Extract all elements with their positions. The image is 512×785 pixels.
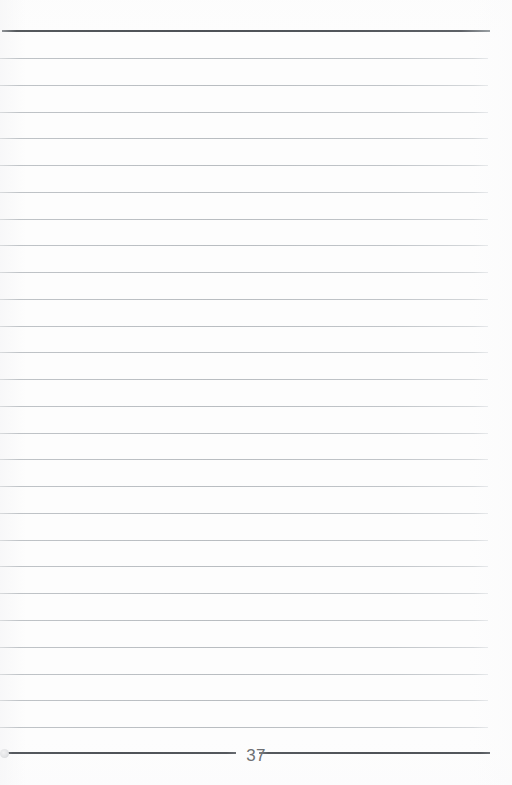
ruled-line [0, 245, 488, 246]
ruled-line [0, 566, 488, 567]
page-number: 37 [0, 747, 512, 764]
ruled-line [0, 219, 488, 220]
ruled-line [0, 433, 488, 434]
ruled-line [0, 647, 488, 648]
ruled-line [0, 138, 488, 139]
ruled-line [0, 406, 488, 407]
ruled-line [0, 593, 488, 594]
notebook-page: 37 [0, 0, 512, 785]
ruled-line [0, 112, 488, 113]
ruled-line [0, 272, 488, 273]
ruled-line [0, 486, 488, 487]
ruled-line [0, 379, 488, 380]
ruled-line [0, 85, 488, 86]
ruled-line [0, 192, 488, 193]
ruled-line [0, 459, 488, 460]
ruled-lines-layer [0, 0, 512, 785]
ruled-line [0, 299, 488, 300]
ruled-line [0, 620, 488, 621]
ruled-line [0, 727, 488, 728]
ruled-line [0, 326, 488, 327]
ruled-line [0, 674, 488, 675]
ruled-line [0, 58, 488, 59]
ruled-line [0, 165, 488, 166]
ruled-line [0, 700, 488, 701]
ruled-line [0, 540, 488, 541]
ruled-line [0, 352, 488, 353]
ruled-line [0, 513, 488, 514]
